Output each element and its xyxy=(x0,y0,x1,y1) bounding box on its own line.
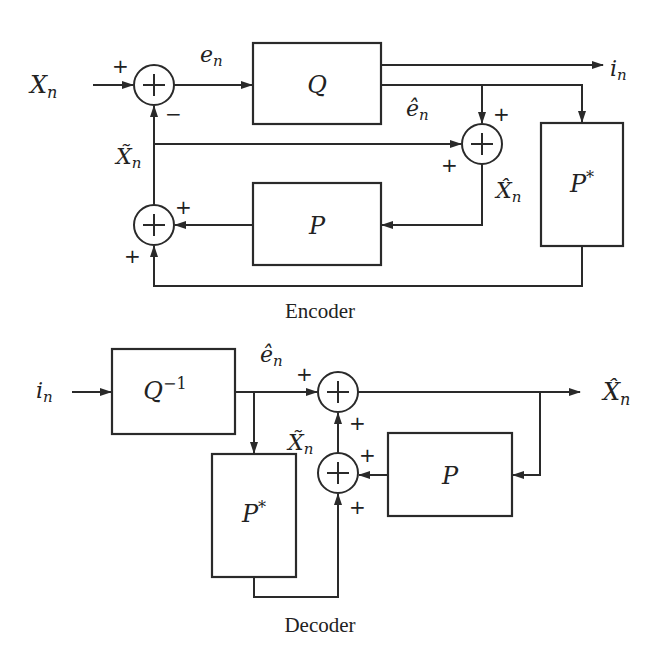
predictive-coding-diagram: Xn + − en Q in ên + + X̃n xyxy=(0,0,669,667)
decoder-predictor-label: P xyxy=(441,462,459,490)
decoder-input-label: in xyxy=(36,378,53,406)
index-output-label: in xyxy=(610,56,627,84)
decoder-output-label: X̂n xyxy=(601,378,630,409)
decoder-sum4-junction xyxy=(318,372,358,412)
sum4-sign-bottom: + xyxy=(349,411,366,435)
reconstruction-to-predictor-wire xyxy=(382,164,482,225)
sum1-sign-left: + xyxy=(112,54,129,78)
sum3-sign-left: + xyxy=(441,153,458,177)
decoder-quant-error-label: ên xyxy=(260,342,283,370)
encoder-caption: Encoder xyxy=(285,299,355,323)
output-to-decoder-predictor-wire xyxy=(513,392,540,475)
encoder-sum1-junction xyxy=(134,65,174,105)
encoder-sum2-junction xyxy=(134,205,174,245)
sum2-sign-bottom: + xyxy=(124,244,141,268)
sum5-sign-bottom: + xyxy=(349,495,366,519)
sum5-sign-right: + xyxy=(359,443,376,467)
decoder-sum5-junction xyxy=(318,453,358,493)
sum4-sign-left: + xyxy=(296,362,313,386)
encoder-predictor-label: P xyxy=(308,212,326,240)
encoder-section: Xn + − en Q in ên + + X̃n xyxy=(28,42,627,323)
encoder-quant-error-label: ên xyxy=(406,96,429,124)
quantizer-label: Q xyxy=(307,71,327,99)
sum1-sign-bottom: − xyxy=(165,102,182,126)
encoder-prediction-label: X̃n xyxy=(114,144,141,172)
sum2-sign-right: + xyxy=(175,195,192,219)
encoder-input-label: Xn xyxy=(28,71,57,102)
decoder-caption: Decoder xyxy=(284,613,355,637)
encoder-sum3-junction xyxy=(462,124,502,164)
decoder-section: in Q−1 ên + + X̂n P + xyxy=(36,342,630,637)
encoder-reconstruction-label: X̂n xyxy=(494,178,521,206)
error-label: en xyxy=(200,42,223,70)
sum3-sign-top: + xyxy=(493,102,510,126)
